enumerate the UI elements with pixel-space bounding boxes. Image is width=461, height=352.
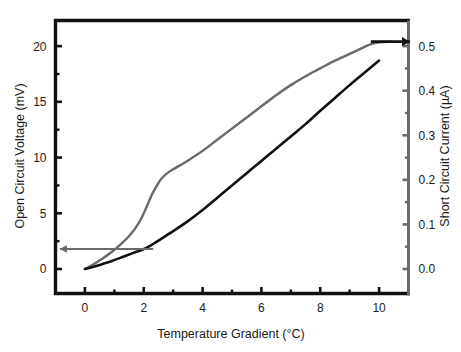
thermoelectric-performance-chart: 051015200.00.10.20.30.40.50246810 Temper… — [0, 0, 461, 352]
x-tick-label: 2 — [140, 301, 147, 315]
x-tick-label: 4 — [199, 301, 206, 315]
y2-tick-label: 0.2 — [419, 173, 436, 187]
y2-tick-label: 0.5 — [419, 40, 436, 54]
x-axis-title: Temperature Gradient (°C) — [157, 327, 304, 341]
y2-tick-label: 0.1 — [419, 218, 436, 232]
y-tick-label: 15 — [33, 95, 47, 109]
y2-tick-label: 0.4 — [419, 84, 436, 98]
figure-container: 051015200.00.10.20.30.40.50246810 Temper… — [0, 0, 461, 352]
chart-background — [0, 0, 461, 352]
y-axis-title: Open Circuit Voltage (mV) — [13, 83, 27, 228]
x-tick-label: 10 — [372, 301, 386, 315]
y2-tick-label: 0.3 — [419, 129, 436, 143]
y-tick-label: 10 — [33, 151, 47, 165]
x-tick-label: 8 — [317, 301, 324, 315]
y-tick-label: 0 — [40, 262, 47, 276]
x-tick-label: 6 — [258, 301, 265, 315]
y-tick-label: 5 — [40, 207, 47, 221]
y-tick-label: 20 — [33, 40, 47, 54]
x-tick-label: 0 — [82, 301, 89, 315]
y2-tick-label: 0.0 — [419, 262, 436, 276]
y2-axis-title: Short Circuit Current (µA) — [438, 85, 452, 226]
